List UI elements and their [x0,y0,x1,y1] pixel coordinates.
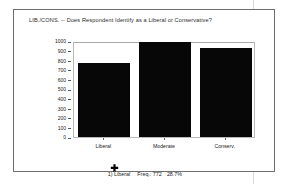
y-axis-tick-mark [68,138,71,139]
x-axis-tick-mark [103,138,104,140]
y-axis-tick-label: 800 [58,58,66,64]
y-axis-tick-mark [68,70,71,71]
y-axis-tick-label: 1000 [55,38,66,44]
y-axis-tick-mark [68,61,71,62]
y-axis-tick-label: 0 [63,134,66,140]
y-axis-tick-label: 400 [58,96,66,102]
x-axis-tick-mark [225,138,226,140]
bar-moderate[interactable] [139,42,191,137]
annotation-index-label: 1) Liberal [108,171,130,177]
y-axis-tick-mark [68,42,71,43]
bar-conserv[interactable] [200,48,252,137]
y-axis-tick-label: 900 [58,48,66,54]
cursor-pointer-icon [110,159,119,168]
y-axis-tick-mark [68,80,71,81]
y-axis-tick-mark [68,99,71,100]
y-axis-tick-mark [68,118,71,119]
y-axis-tick-label: 700 [58,67,66,73]
y-axis-tick-mark [68,51,71,52]
figure-title: LIB./CONS. -- Does Respondent Identify a… [29,17,212,23]
annotation-percent-label: 28.7% [167,171,182,177]
y-axis-tick-mark [68,109,71,110]
y-axis-tick-label: 500 [58,86,66,92]
plot-area [73,42,255,138]
y-axis-tick-mark [68,128,71,129]
y-axis-tick-mark [68,90,71,91]
y-axis-tick-label: 200 [58,115,66,121]
bar-liberal[interactable] [78,63,130,137]
figure-panel: LIB./CONS. -- Does Respondent Identify a… [13,9,275,172]
x-axis-tick-mark [164,138,165,140]
x-axis-label-conserv: Conserv. [194,143,255,149]
x-axis-label-moderate: Moderate [134,143,195,149]
y-axis-tick-label: 300 [58,106,66,112]
y-axis-tick-label: 100 [58,125,66,131]
annotation-frequency-label: Freq.: 772 [137,171,162,177]
y-axis-tick-label: 600 [58,77,66,83]
x-axis-label-liberal: Liberal [73,143,134,149]
selection-annotation: 1) LiberalFreq.: 77228.7% [14,171,276,177]
y-axis: 01002003004005006007008009001000 [14,42,73,138]
